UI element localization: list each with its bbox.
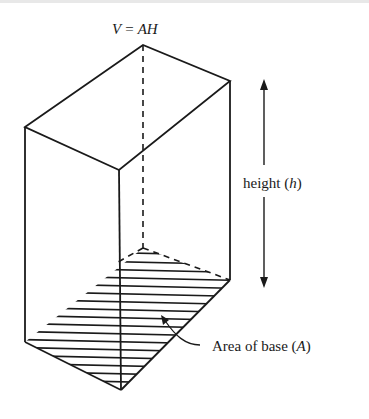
hidden-edges xyxy=(118,45,230,280)
height-label: height (h) xyxy=(243,175,302,192)
prism-diagram: V=AH height (h) Area of base (A) xyxy=(0,0,369,419)
hidden-base-edge-right xyxy=(143,248,230,280)
base-hatching xyxy=(0,250,260,385)
top-face xyxy=(25,45,230,170)
arrow-up-icon xyxy=(260,79,268,90)
hidden-base-edge-left xyxy=(118,248,143,262)
base-area-label: Area of base (A) xyxy=(212,338,311,355)
base-front-right-edge xyxy=(121,280,230,390)
visible-edges xyxy=(25,45,230,390)
arrow-down-icon xyxy=(260,277,268,288)
volume-formula: V=AH xyxy=(112,21,159,37)
